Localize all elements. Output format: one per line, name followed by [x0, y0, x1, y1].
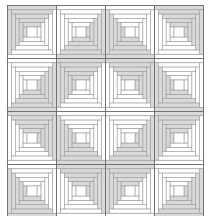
- quilt-block: [57, 6, 106, 59]
- quilt-block: [8, 165, 57, 217]
- quilt-block: [106, 112, 155, 165]
- quilt-block: [8, 112, 57, 165]
- quilt-block: [155, 112, 204, 165]
- quilt-canvas: [7, 5, 204, 216]
- quilt-block: [106, 59, 155, 112]
- quilt-block: [155, 165, 204, 217]
- quilt-block: [57, 59, 106, 112]
- quilt-block: [57, 165, 106, 217]
- quilt-block: [8, 59, 57, 112]
- quilt-block: [155, 59, 204, 112]
- quilt-block: [57, 112, 106, 165]
- quilt-block: [106, 165, 155, 217]
- log-cabin-quilt: [7, 5, 204, 216]
- quilt-block: [155, 6, 204, 59]
- quilt-block: [8, 6, 57, 59]
- quilt-block: [106, 6, 155, 59]
